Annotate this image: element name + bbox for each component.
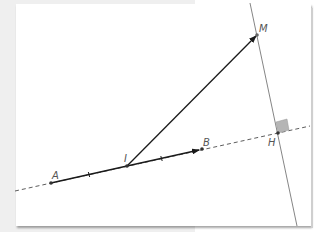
point-h (276, 131, 280, 135)
label-b: B (203, 137, 210, 148)
label-m: M (259, 23, 268, 34)
label-i: I (124, 153, 127, 164)
point-a (49, 181, 53, 185)
geometry-figure: A I B M H (0, 0, 325, 241)
label-h: H (268, 137, 276, 148)
vector-im (127, 36, 256, 166)
tick-mark-ai (88, 172, 89, 177)
vector-ib (127, 150, 199, 166)
point-i (125, 164, 129, 168)
tick-mark-ib (161, 156, 162, 161)
right-angle-marker (276, 119, 289, 133)
label-a: A (51, 170, 59, 181)
